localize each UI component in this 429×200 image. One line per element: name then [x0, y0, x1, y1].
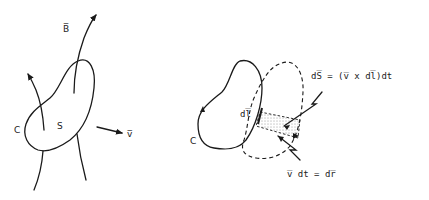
left-panel: B̅ C S v̅	[14, 15, 133, 190]
label-dl: dl̅	[240, 108, 251, 119]
field-line-b-4	[77, 134, 86, 180]
field-line-b-2	[28, 74, 44, 130]
flux-rule-diagram: B̅ C S v̅ C dl̅ dS̅ = (v̅ x dl̅)dt v̅ dt…	[0, 0, 429, 200]
label-dr-equation: v̅ dt = dr̅	[287, 169, 336, 179]
label-surface-s: S	[57, 121, 63, 131]
label-b-field: B̅	[63, 23, 69, 34]
loop-direction-mark	[200, 106, 205, 112]
field-line-b-1	[74, 15, 96, 93]
label-velocity-v: v̅	[127, 129, 133, 139]
label-ds-equation: dS̅ = (v̅ x dl̅)dt	[311, 70, 392, 81]
loop-curve-c-initial	[198, 61, 262, 150]
loop-curve-c	[25, 60, 95, 151]
velocity-arrow	[97, 127, 122, 133]
label-curve-c-right: C	[190, 136, 196, 146]
label-curve-c: C	[14, 125, 20, 135]
loop-curve-displaced	[243, 62, 304, 158]
leader-dr-arrowhead	[278, 136, 284, 142]
right-panel: C dl̅ dS̅ = (v̅ x dl̅)dt v̅ dt = dr̅	[190, 61, 392, 179]
field-line-b-3	[34, 151, 43, 190]
